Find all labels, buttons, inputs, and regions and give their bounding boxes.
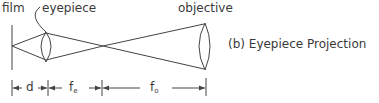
dimension-fo: fo: [150, 81, 159, 95]
objective-lens: [199, 23, 210, 70]
dimension-fe-sub: e: [73, 87, 77, 95]
optics-diagram: [0, 0, 379, 103]
dimension-d: d: [26, 81, 34, 93]
dimension-fo-sub: o: [154, 87, 158, 95]
caption: (b) Eyepiece Projection: [228, 38, 366, 50]
objective-label: objective: [178, 2, 233, 14]
eyepiece-label: eyepiece: [42, 2, 96, 14]
dimension-fe: fe: [69, 81, 78, 95]
film-label: film: [2, 2, 25, 14]
eyepiece-lens: [41, 32, 51, 62]
